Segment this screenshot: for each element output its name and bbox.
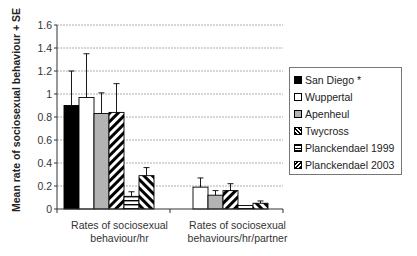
- y-tick-label: 0.6: [37, 134, 52, 146]
- y-tick-label: 1.2: [37, 65, 52, 77]
- y-tick-label: 0: [46, 203, 52, 215]
- bar: [208, 195, 223, 209]
- legend-swatch-icon: [294, 110, 302, 118]
- bar: [223, 191, 238, 209]
- legend-item: Planckendael 1999: [294, 139, 401, 156]
- legend-item: San Diego *: [294, 71, 401, 88]
- bar: [193, 187, 208, 209]
- x-category-label-2: Rates of sociosexualbehaviours/hr/partne…: [175, 219, 300, 245]
- legend-swatch-icon: [294, 76, 302, 84]
- bar: [238, 206, 253, 209]
- bar: [94, 114, 109, 209]
- legend-item: Twycross: [294, 122, 401, 139]
- legend-label: Planckendael 1999: [305, 142, 394, 154]
- y-tick-label: 0.8: [37, 111, 52, 123]
- y-tick-label: 1.6: [37, 19, 52, 31]
- legend-item: Wuppertal: [294, 88, 401, 105]
- bar: [253, 203, 268, 209]
- legend-swatch-icon: [294, 161, 302, 169]
- legend-swatch-icon: [294, 127, 302, 135]
- legend-item: Apenheul: [294, 105, 401, 122]
- y-axis-label: Mean rate of sociosexual behaviour + SE: [10, 16, 22, 212]
- legend-label: Twycross: [305, 125, 349, 137]
- legend-item: Planckendael 2003: [294, 156, 401, 173]
- bar: [124, 196, 139, 209]
- y-tick-label: 1: [46, 88, 52, 100]
- legend-label: San Diego *: [305, 74, 361, 86]
- bar: [139, 176, 154, 209]
- bar: [79, 97, 94, 209]
- legend: San Diego *WuppertalApenheulTwycrossPlan…: [289, 67, 402, 175]
- bar: [64, 106, 79, 210]
- bar: [109, 112, 124, 209]
- legend-swatch-icon: [294, 144, 302, 152]
- y-tick-label: 1.4: [37, 42, 52, 54]
- legend-label: Wuppertal: [305, 91, 353, 103]
- legend-swatch-icon: [294, 93, 302, 101]
- y-tick-label: 0.2: [37, 180, 52, 192]
- legend-label: Planckendael 2003: [305, 159, 394, 171]
- y-tick-label: 0.4: [37, 157, 52, 169]
- legend-label: Apenheul: [305, 108, 349, 120]
- x-category-label-1: Rates of sociosexualbehaviour/hr: [62, 219, 177, 245]
- y-axis-ticks: 00.20.40.60.811.21.41.6: [37, 19, 57, 215]
